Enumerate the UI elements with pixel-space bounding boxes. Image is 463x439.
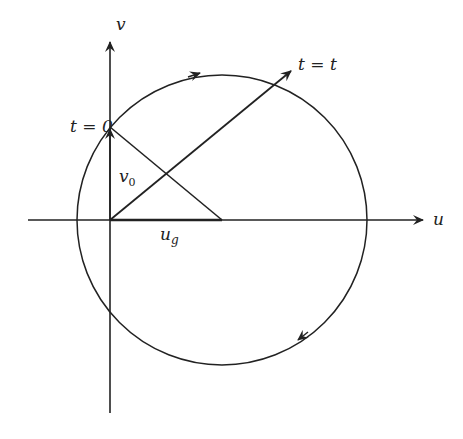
ug-symbol: u [160, 224, 171, 244]
v0-subscript: 0 [129, 176, 136, 189]
velocity-vector-t [110, 71, 291, 220]
circle-arrow-bottom-icon [298, 332, 308, 340]
u-axis-label: u [433, 211, 444, 228]
v0-symbol: v [119, 166, 129, 186]
hodograph-diagram [0, 0, 463, 439]
v-axis-label: v [116, 16, 126, 33]
tt-label: t = t [298, 56, 337, 73]
ug-label: ug [160, 226, 179, 246]
t0-label: t = 0 [70, 118, 113, 135]
ug-subscript: g [171, 233, 179, 247]
v0-label: v0 [119, 168, 136, 188]
